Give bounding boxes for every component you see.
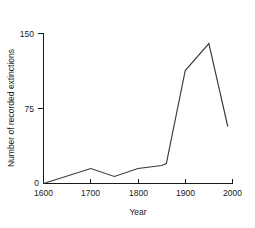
y-axis-title: Number of recorded extinctions bbox=[6, 49, 16, 167]
extinctions-data-line bbox=[44, 44, 228, 184]
chart-plot-area: 150 75 0 1600 1700 1800 1900 2000 Year N… bbox=[0, 0, 255, 228]
y-tick-label-0: 0 bbox=[34, 178, 39, 188]
x-tick-label-1600: 1600 bbox=[34, 188, 53, 198]
x-tick-label-1800: 1800 bbox=[129, 188, 148, 198]
x-tick-label-2000: 2000 bbox=[223, 188, 242, 198]
extinctions-line-chart: 150 75 0 1600 1700 1800 1900 2000 Year N… bbox=[0, 0, 255, 228]
y-tick-label-75: 75 bbox=[25, 104, 35, 114]
x-tick-label-1700: 1700 bbox=[81, 188, 100, 198]
y-tick-label-150: 150 bbox=[20, 29, 34, 39]
x-tick-label-1900: 1900 bbox=[176, 188, 195, 198]
x-axis-title: Year bbox=[129, 207, 146, 217]
